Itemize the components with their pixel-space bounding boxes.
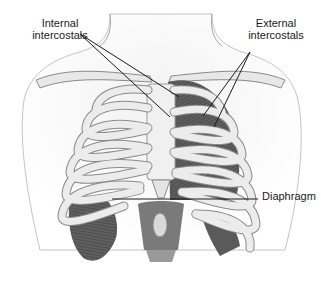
label-internal-intercostals: Internal intercostals — [20, 17, 100, 41]
rib-cage-illustration — [0, 0, 321, 288]
label-internal-line1: Internal — [20, 17, 100, 29]
label-external-line2: intercostals — [236, 29, 316, 41]
label-external-intercostals: External intercostals — [236, 17, 316, 41]
label-internal-line2: intercostals — [20, 29, 100, 41]
lower-spine-region — [138, 201, 184, 262]
label-diaphragm-text: Diaphragm — [262, 190, 316, 202]
label-external-line1: External — [236, 17, 316, 29]
label-diaphragm: Diaphragm — [262, 190, 316, 202]
